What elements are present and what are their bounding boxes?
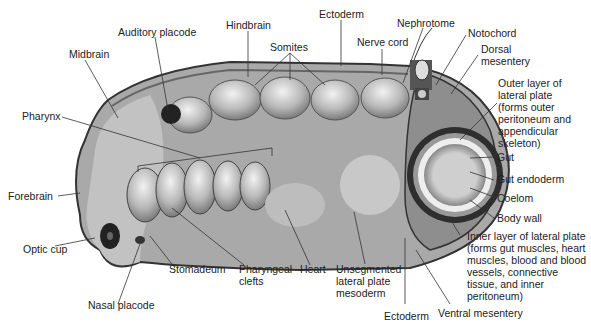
label-hindbrain: Hindbrain bbox=[226, 19, 271, 31]
label-outer-layer: Outer layer of lateral plate (forms oute… bbox=[498, 77, 583, 149]
label-stomadeum: Stomadeum bbox=[169, 263, 226, 275]
label-nasal-placode: Nasal placode bbox=[88, 299, 155, 311]
label-unsegmented: Unsegmented lateral plate mesoderm bbox=[336, 263, 406, 299]
label-gut-endoderm: Gut endoderm bbox=[497, 173, 564, 185]
label-gut: Gut bbox=[497, 151, 514, 163]
label-nephrotome: Nephrotome bbox=[397, 17, 455, 29]
label-forebrain: Forebrain bbox=[8, 190, 53, 202]
label-coelom: Coelom bbox=[497, 192, 533, 204]
label-body-wall: Body wall bbox=[497, 212, 542, 224]
label-ectoderm-top: Ectoderm bbox=[319, 8, 364, 20]
label-somites: Somites bbox=[270, 41, 308, 53]
nasal-placode-shape bbox=[135, 236, 145, 244]
label-inner-layer: Inner layer of lateral plate (forms gut … bbox=[467, 230, 589, 302]
label-dorsal-mesentery: Dorsal mesentery bbox=[481, 43, 551, 67]
label-auditory-placode: Auditory placode bbox=[118, 26, 196, 38]
label-midbrain: Midbrain bbox=[69, 48, 109, 60]
label-ventral-mesentery: Ventral mesentery bbox=[438, 307, 523, 319]
label-optic-cup: Optic cup bbox=[23, 243, 67, 255]
nerve-cord-shape bbox=[415, 60, 429, 80]
label-pharynx: Pharynx bbox=[22, 110, 61, 122]
label-nerve-cord: Nerve cord bbox=[357, 36, 408, 48]
label-notochord: Notochord bbox=[468, 27, 516, 39]
label-heart: Heart bbox=[300, 263, 326, 275]
label-pharyngeal-clefts: Pharyngeal clefts bbox=[239, 263, 299, 287]
auditory-placode-shape bbox=[161, 104, 181, 124]
label-ectoderm-bottom: Ectoderm bbox=[384, 310, 429, 322]
